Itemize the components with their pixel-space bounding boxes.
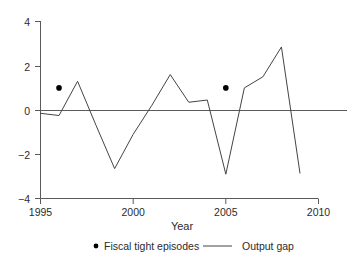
y-tick-label-neg4: −4 bbox=[18, 193, 30, 205]
y-tick-label-0: 0 bbox=[24, 105, 30, 117]
x-axis-title: Year bbox=[171, 220, 194, 232]
chart-legend: Fiscal tight episodes Output gap bbox=[94, 240, 295, 252]
x-tick-label-2005: 2005 bbox=[214, 206, 238, 218]
y-tick-label-4: 4 bbox=[24, 16, 30, 28]
x-tick-label-2010: 2010 bbox=[307, 206, 331, 218]
y-tick-label-2: 2 bbox=[24, 61, 30, 73]
fiscal-tight-marker bbox=[223, 85, 229, 91]
legend-label-output-gap: Output gap bbox=[242, 240, 294, 252]
y-tick-label-neg2: −2 bbox=[18, 149, 30, 161]
legend-dot-icon bbox=[94, 244, 99, 249]
output-gap-chart: 4 2 0 −2 −4 1995 2000 2005 2010 Year Fis… bbox=[0, 0, 364, 265]
legend-label-fiscal-tight-episodes: Fiscal tight episodes bbox=[104, 240, 199, 252]
x-tick-label-2000: 2000 bbox=[122, 206, 146, 218]
x-tick-label-1995: 1995 bbox=[29, 206, 53, 218]
chart-figure: 4 2 0 −2 −4 1995 2000 2005 2010 Year Fis… bbox=[0, 0, 364, 265]
fiscal-tight-marker bbox=[56, 85, 62, 91]
